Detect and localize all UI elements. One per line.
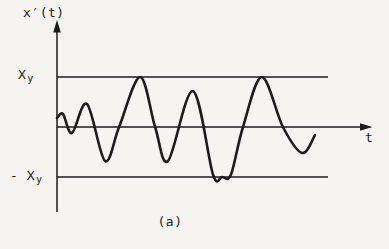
- upper-threshold-label-subscript: y: [27, 73, 33, 84]
- x-axis-label: t: [365, 131, 373, 144]
- plot-canvas: [0, 0, 389, 249]
- lower-threshold-label-subscript: y: [36, 174, 42, 185]
- upper-threshold-label-main: X: [18, 67, 26, 82]
- lower-threshold-label: - Xy: [10, 169, 41, 182]
- lower-threshold-label-main: - X: [10, 168, 35, 183]
- figure-caption: (a): [150, 215, 190, 228]
- y-axis-arrowhead-icon: [53, 20, 61, 33]
- waveform-figure: x′(t) Xy - Xy t (a): [0, 0, 389, 249]
- axes: [53, 20, 372, 212]
- upper-threshold-label: Xy: [18, 68, 32, 81]
- signal-curve: [57, 77, 315, 182]
- y-axis-label: x′(t): [23, 6, 65, 19]
